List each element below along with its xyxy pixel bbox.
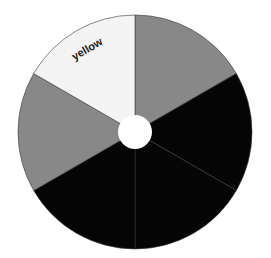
donut-chart: yellow [0,0,271,258]
center-hole [118,115,152,149]
